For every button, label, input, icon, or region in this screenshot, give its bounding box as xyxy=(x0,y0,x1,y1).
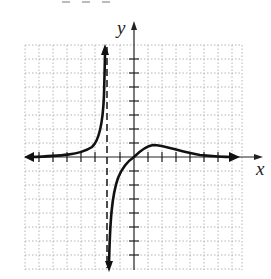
left-branch-top-arrow-icon xyxy=(101,44,109,55)
y-axis-label: y xyxy=(117,17,125,39)
right-branch-bottom-arrow-icon xyxy=(105,261,113,272)
graph xyxy=(0,0,271,279)
y-axis-arrow-icon xyxy=(131,21,137,30)
right-branch xyxy=(109,145,232,265)
curve xyxy=(30,52,232,265)
right-branch-right-arrow-icon xyxy=(229,152,240,162)
x-axis-label: x xyxy=(256,158,264,180)
y-axis xyxy=(129,25,139,270)
